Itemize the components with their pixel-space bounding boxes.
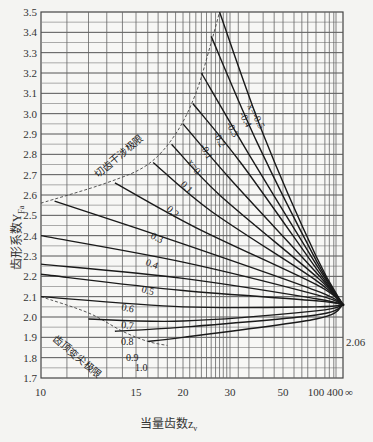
svg-text:当量齿数zv: 当量齿数zv [140,416,197,433]
y-tick-label: 2.0 [23,311,37,323]
x-tick-label: 50 [278,386,290,398]
y-tick-label: 2.4 [23,230,37,242]
y-tick-label: 3.2 [23,67,37,79]
x-axis-title: 当量齿数zv [140,416,197,433]
converge-value-label: 2.06 [346,336,366,348]
grid [41,12,343,378]
y-tick-label: 2.2 [23,270,37,282]
y-tick-label: 2.7 [23,169,37,181]
x-tick-label: 10 [35,386,47,398]
curve-label: 0.7 [121,319,134,331]
x-tick-label: 100 [308,386,325,398]
curve-label: 1.0 [135,362,148,373]
x-tick-label: 400 [327,386,344,398]
converge-point [342,303,345,306]
y-tick-label: 1.8 [23,352,37,364]
x-tick-label: ∞ [345,386,353,398]
y-axis-ticks: 1.71.81.92.02.12.22.32.42.52.62.72.82.93… [23,6,37,384]
y-tick-label: 2.9 [23,128,37,140]
y-tick-label: 2.6 [23,189,37,201]
y-tick-label: 2.8 [23,148,37,160]
x-tick-label: 20 [178,386,190,398]
y-axis-title: 齿形系数YFa [9,205,26,270]
y-tick-label: 1.7 [23,372,37,384]
curve-label: 0.8 [121,336,134,347]
y-tick-label: 3.3 [23,47,37,59]
y-tick-label: 3.1 [23,87,37,99]
y-tick-label: 2.3 [23,250,37,262]
x-tick-label: 30 [225,386,237,398]
x-axis-ticks: 1015203050100400∞ [35,386,353,398]
y-tick-label: 3.0 [23,108,37,120]
x-tick-label: 15 [131,386,143,398]
svg-text:齿形系数YFa: 齿形系数YFa [9,205,26,270]
tooth-form-factor-chart: x=-0.5-0.4-0.3-0.2-0.1x=00.10.20.30.40.5… [0,0,373,442]
y-tick-label: 3.4 [23,26,37,38]
y-tick-label: 1.9 [23,331,37,343]
y-tick-label: 3.5 [23,6,37,18]
y-tick-label: 2.1 [23,291,37,303]
